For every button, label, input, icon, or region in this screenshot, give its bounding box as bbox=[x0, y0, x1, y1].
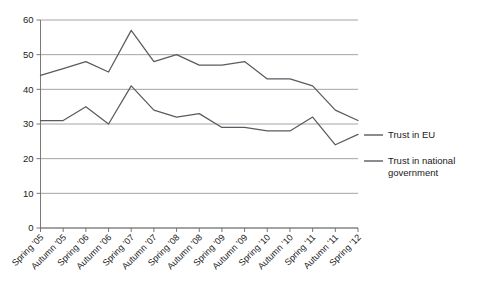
y-tick-label: 30 bbox=[23, 118, 34, 129]
legend-label-1: Trust in EU bbox=[388, 129, 435, 140]
y-tick-label: 20 bbox=[23, 153, 34, 164]
chart-canvas: 0102030405060 Spring '05Autumn '05Spring… bbox=[0, 0, 479, 282]
y-tick-label: 40 bbox=[23, 84, 34, 95]
line-chart: 0102030405060 Spring '05Autumn '05Spring… bbox=[0, 0, 479, 282]
series-line-1 bbox=[41, 30, 359, 120]
y-axis-tick-marks bbox=[37, 20, 41, 228]
y-tick-label: 0 bbox=[28, 222, 33, 233]
data-series-layer bbox=[41, 30, 359, 144]
y-tick-label: 50 bbox=[23, 49, 34, 60]
x-axis-tick-marks bbox=[41, 228, 359, 232]
gridlines bbox=[41, 20, 359, 228]
x-axis-tick-labels: Spring '05Autumn '05Spring '06Autumn '06… bbox=[10, 232, 363, 271]
series-line-2 bbox=[41, 86, 359, 145]
legend-label-2-line2: government bbox=[388, 167, 439, 178]
y-tick-label: 60 bbox=[23, 14, 34, 25]
y-tick-label: 10 bbox=[23, 188, 34, 199]
legend-label-2: Trust in national bbox=[388, 155, 455, 166]
chart-legend: Trust in EUTrust in nationalgovernment bbox=[364, 129, 455, 178]
y-axis-tick-labels: 0102030405060 bbox=[23, 14, 34, 233]
